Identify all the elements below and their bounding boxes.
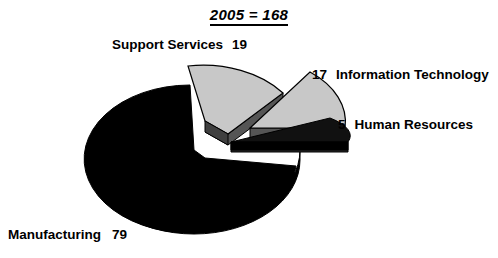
label-information-technology: 17Information Technology	[312, 68, 489, 82]
label-manufacturing-name: Manufacturing	[8, 227, 101, 242]
label-human-resources: 5Human Resources	[338, 118, 473, 132]
label-manufacturing: Manufacturing79	[8, 228, 127, 242]
label-manufacturing-value: 79	[112, 227, 127, 242]
label-support-services-name: Support Services	[112, 37, 223, 52]
label-support-services-value: 19	[232, 37, 247, 52]
label-human-resources-name: Human Resources	[355, 117, 474, 132]
label-support-services: Support Services19	[112, 38, 247, 52]
chart-canvas: 2005 = 168	[0, 0, 498, 258]
label-human-resources-value: 5	[338, 117, 346, 132]
label-information-technology-value: 17	[312, 67, 327, 82]
label-information-technology-name: Information Technology	[336, 67, 489, 82]
